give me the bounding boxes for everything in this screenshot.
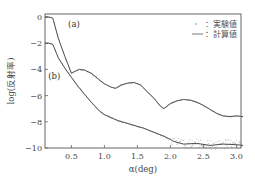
y-tick-label: −4 xyxy=(30,65,42,74)
curve-label: (b) xyxy=(48,71,60,81)
legend-experimental: ：実験値 xyxy=(205,19,237,29)
y-tick-label: 0 xyxy=(37,13,42,22)
x-tick-label: 2.0 xyxy=(164,152,177,161)
legend: ：実験値 ：計算値 xyxy=(192,19,237,39)
x-tick-label: 1.5 xyxy=(131,152,144,161)
y-axis-label: log(反射率) xyxy=(6,58,16,105)
reflectivity-chart: 0.51.01.52.02.53.0 0−2−4−6−8−10 (a)(b) α… xyxy=(0,0,255,180)
x-tick-label: 1.0 xyxy=(98,152,111,161)
x-axis-label: α(deg) xyxy=(129,164,157,174)
experimental-points-b xyxy=(46,42,242,150)
x-tick-label: 2.5 xyxy=(197,152,210,161)
x-tick-label: 0.5 xyxy=(65,152,78,161)
curve-label: (a) xyxy=(68,19,80,29)
y-tick-label: −10 xyxy=(25,144,42,153)
y-tick-label: −8 xyxy=(30,118,42,127)
calculated-curve-b xyxy=(45,43,243,145)
y-tick-label: −2 xyxy=(30,39,42,48)
legend-calculated: ：計算値 xyxy=(205,29,237,39)
x-tick-label: 3.0 xyxy=(230,152,243,161)
x-axis: 0.51.01.52.02.53.0 xyxy=(65,145,243,161)
legend-dot-marker xyxy=(195,23,196,24)
y-tick-label: −6 xyxy=(30,92,42,101)
